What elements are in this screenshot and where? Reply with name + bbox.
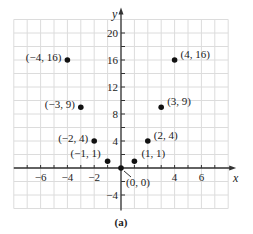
- data-point: [105, 158, 111, 164]
- point-label: (4, 16): [181, 48, 211, 61]
- x-tick-label: −2: [88, 171, 100, 183]
- data-point: [172, 57, 178, 63]
- point-label: (−1, 1): [71, 147, 101, 160]
- point-label: (−2, 4): [58, 132, 88, 145]
- point-label: (1, 1): [141, 147, 165, 160]
- data-point: [132, 158, 138, 164]
- x-axis-label: x: [232, 171, 239, 185]
- x-tick-label: 4: [172, 171, 178, 183]
- data-point: [91, 138, 97, 144]
- point-label: (−4, 16): [26, 51, 62, 64]
- data-point: [158, 104, 164, 110]
- y-axis-arrow-icon: [119, 8, 124, 15]
- scatter-chart: −6−4−24620161284−4 (−4, 16)(−3, 9)(−2, 4…: [0, 0, 253, 234]
- point-label: (3, 9): [167, 95, 191, 108]
- y-tick-label: 16: [107, 54, 119, 66]
- y-tick-label: 8: [113, 108, 119, 120]
- point-label: (0, 0): [126, 176, 150, 189]
- x-tick-label: −6: [35, 171, 47, 183]
- y-tick-label: 12: [107, 81, 118, 93]
- data-point: [118, 165, 124, 171]
- figure-caption: (a): [115, 216, 128, 229]
- x-tick-label: −4: [62, 171, 74, 183]
- y-tick-label: 4: [113, 135, 119, 147]
- y-tick-label: 20: [107, 27, 119, 39]
- data-point: [65, 57, 71, 63]
- data-point: [145, 138, 151, 144]
- x-axis-arrow-icon: [229, 166, 236, 171]
- y-tick-label: −4: [106, 189, 118, 201]
- point-label: (2, 4): [154, 129, 178, 142]
- x-tick-label: 6: [199, 171, 205, 183]
- data-point: [78, 104, 84, 110]
- point-label: (−3, 9): [45, 98, 75, 111]
- y-axis-label: y: [111, 7, 118, 21]
